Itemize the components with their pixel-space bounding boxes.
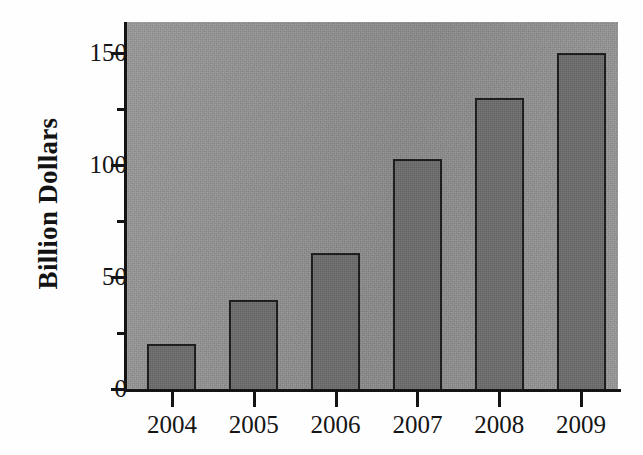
bar-texture (149, 346, 194, 389)
bar-2009 (557, 53, 606, 389)
bar-chart-figure: Billion Dollars 050100150 20042005200620… (0, 0, 643, 455)
bar-texture (559, 55, 604, 389)
bar-2006 (311, 253, 360, 390)
plot-area (127, 22, 618, 389)
x-tick-2005 (253, 392, 256, 407)
y-axis-spine (124, 22, 127, 392)
x-tick-2007 (416, 392, 419, 407)
x-tick-2006 (335, 392, 338, 407)
bar-2004 (147, 344, 196, 389)
y-tick-minor-25 (117, 332, 126, 335)
y-tick-label-100: 100 (69, 152, 127, 177)
y-axis-title: Billion Dollars (33, 64, 64, 344)
x-tick-2004 (171, 392, 174, 407)
bar-texture (477, 100, 522, 389)
x-tick-2008 (498, 392, 501, 407)
bar-2007 (393, 159, 442, 389)
bar-texture (231, 302, 276, 390)
y-tick-minor-75 (117, 220, 126, 223)
bar-2005 (229, 300, 278, 390)
x-tick-label-2009: 2009 (526, 412, 636, 437)
y-tick-minor-125 (117, 108, 126, 111)
y-tick-label-0: 0 (69, 376, 127, 401)
x-axis-spine (124, 389, 621, 392)
y-tick-label-150: 150 (69, 40, 127, 65)
bar-texture (313, 255, 358, 390)
bar-2008 (475, 98, 524, 389)
y-tick-label-50: 50 (69, 264, 127, 289)
paper-grain-overlay (127, 22, 618, 389)
scan-vignette-overlay (127, 22, 618, 389)
x-tick-2009 (580, 392, 583, 407)
bar-texture (395, 161, 440, 389)
